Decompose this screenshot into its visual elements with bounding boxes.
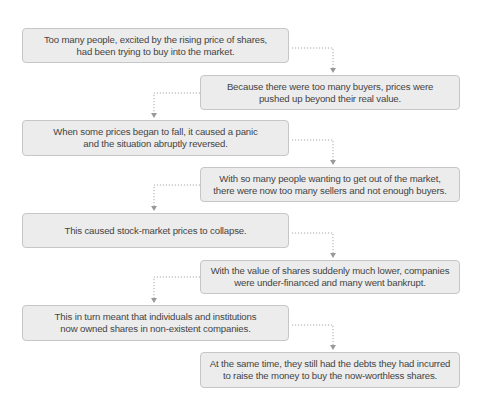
connector-line xyxy=(154,185,200,207)
step-text: With the value of shares suddenly much l… xyxy=(211,265,450,289)
step-line: pushed up beyond their real value. xyxy=(227,93,433,105)
flow-step-3: When some prices began to fall, it cause… xyxy=(22,120,289,156)
step-text: When some prices began to fall, it cause… xyxy=(53,126,257,150)
connector-arrow-1 xyxy=(292,48,336,73)
arrowhead-icon xyxy=(330,68,336,73)
arrowhead-icon xyxy=(151,298,157,303)
flow-step-4: With so many people wanting to get out o… xyxy=(200,167,460,202)
step-text: At the same time, they still had the deb… xyxy=(210,358,451,382)
flow-step-7: This in turn meant that individuals and … xyxy=(22,305,289,341)
step-line: Because there were too many buyers, pric… xyxy=(227,81,433,93)
arrowhead-icon xyxy=(151,113,157,118)
step-line: This caused stock-market prices to colla… xyxy=(64,225,246,237)
connector-line xyxy=(292,140,333,161)
flow-step-8: At the same time, they still had the deb… xyxy=(200,352,460,388)
flow-step-5: This caused stock-market prices to colla… xyxy=(22,213,289,248)
arrowhead-icon xyxy=(151,206,157,211)
step-line: were under-financed and many went bankru… xyxy=(211,277,450,289)
step-line: and the situation abruptly reversed. xyxy=(53,138,257,150)
connector-line xyxy=(292,48,333,69)
connector-arrow-7 xyxy=(292,325,336,350)
step-text: Too many people, excited by the rising p… xyxy=(44,34,267,58)
connector-line xyxy=(292,233,333,254)
flow-step-1: Too many people, excited by the rising p… xyxy=(22,28,289,63)
connector-arrow-3 xyxy=(292,140,336,165)
connector-arrow-2 xyxy=(151,93,200,118)
connector-line xyxy=(292,325,333,346)
connector-arrow-4 xyxy=(151,185,200,211)
flow-step-6: With the value of shares suddenly much l… xyxy=(200,260,460,294)
step-line: When some prices began to fall, it cause… xyxy=(53,126,257,138)
step-text: With so many people wanting to get out o… xyxy=(213,173,447,197)
arrowhead-icon xyxy=(330,160,336,165)
step-line: At the same time, they still had the deb… xyxy=(210,358,451,370)
connector-line xyxy=(154,277,200,299)
step-text: Because there were too many buyers, pric… xyxy=(227,81,433,105)
arrowhead-icon xyxy=(330,345,336,350)
step-line: there were now too many sellers and not … xyxy=(213,185,447,197)
flow-step-2: Because there were too many buyers, pric… xyxy=(200,75,460,110)
step-text: This caused stock-market prices to colla… xyxy=(64,225,246,237)
step-line: to raise the money to buy the now-worthl… xyxy=(210,370,451,382)
step-line: With so many people wanting to get out o… xyxy=(213,173,447,185)
step-text: This in turn meant that individuals and … xyxy=(55,311,257,335)
connector-arrow-6 xyxy=(151,277,200,303)
step-line: Too many people, excited by the rising p… xyxy=(44,34,267,46)
step-line: With the value of shares suddenly much l… xyxy=(211,265,450,277)
connector-arrow-5 xyxy=(292,233,336,258)
arrowhead-icon xyxy=(330,253,336,258)
step-line: had been trying to buy into the market. xyxy=(44,46,267,58)
connector-line xyxy=(154,93,200,114)
step-line: This in turn meant that individuals and … xyxy=(55,311,257,323)
step-line: now owned shares in non-existent compani… xyxy=(55,323,257,335)
